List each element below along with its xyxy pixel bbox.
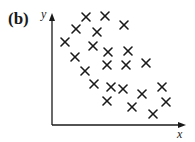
x-axis-label: x: [177, 127, 182, 142]
cross-marker-icon: [128, 103, 136, 111]
cross-marker-icon: [142, 59, 150, 67]
cross-marker-icon: [107, 83, 115, 91]
data-points: [61, 12, 170, 118]
cross-marker-icon: [149, 110, 157, 118]
cross-marker-icon: [72, 25, 80, 33]
cross-marker-icon: [162, 98, 170, 106]
cross-marker-icon: [81, 67, 89, 75]
cross-marker-icon: [90, 80, 98, 88]
cross-marker-icon: [138, 90, 146, 98]
y-axis-label: y: [41, 7, 46, 22]
cross-marker-icon: [89, 42, 97, 50]
cross-marker-icon: [82, 13, 90, 21]
cross-marker-icon: [103, 97, 111, 105]
panel-label: (b): [8, 9, 29, 29]
cross-marker-icon: [103, 61, 111, 69]
y-axis-arrow-icon: [49, 13, 55, 21]
cross-marker-icon: [61, 38, 69, 46]
cross-marker-icon: [71, 53, 79, 61]
cross-marker-icon: [101, 12, 109, 20]
scatter-plot: [0, 0, 195, 142]
cross-marker-icon: [122, 61, 130, 69]
cross-marker-icon: [120, 21, 128, 29]
cross-marker-icon: [124, 47, 132, 55]
cross-marker-icon: [158, 83, 166, 91]
cross-marker-icon: [119, 85, 127, 93]
cross-marker-icon: [93, 28, 101, 36]
axes: [49, 13, 186, 128]
cross-marker-icon: [104, 48, 112, 56]
